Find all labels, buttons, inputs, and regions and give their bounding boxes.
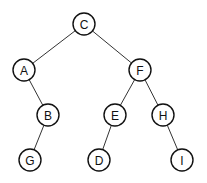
edge-a-b bbox=[29, 80, 43, 106]
node-label: I bbox=[180, 154, 183, 168]
edge-f-e bbox=[120, 80, 134, 106]
node-label: D bbox=[95, 154, 104, 168]
edge-b-g bbox=[34, 125, 44, 150]
binary-tree-diagram: CAFBEHGDI bbox=[0, 0, 207, 183]
edge-f-h bbox=[145, 80, 158, 105]
tree-node-e: E bbox=[104, 104, 126, 126]
tree-node-d: D bbox=[88, 149, 110, 171]
node-label: B bbox=[44, 109, 52, 123]
tree-node-i: I bbox=[171, 149, 193, 171]
tree-node-h: H bbox=[152, 104, 174, 126]
tree-node-g: G bbox=[19, 149, 41, 171]
tree-node-b: B bbox=[37, 104, 59, 126]
node-label: G bbox=[25, 154, 34, 168]
edge-h-i bbox=[167, 125, 177, 150]
node-label: F bbox=[136, 64, 143, 78]
node-label: A bbox=[20, 64, 28, 78]
node-label: H bbox=[159, 109, 168, 123]
edge-c-f bbox=[92, 31, 131, 63]
edge-e-d bbox=[103, 125, 112, 149]
tree-node-c: C bbox=[73, 13, 95, 35]
node-label: C bbox=[80, 18, 89, 32]
tree-edges bbox=[29, 31, 178, 150]
node-label: E bbox=[111, 109, 119, 123]
tree-node-f: F bbox=[129, 59, 151, 81]
tree-node-a: A bbox=[13, 59, 35, 81]
edge-c-a bbox=[33, 31, 76, 64]
